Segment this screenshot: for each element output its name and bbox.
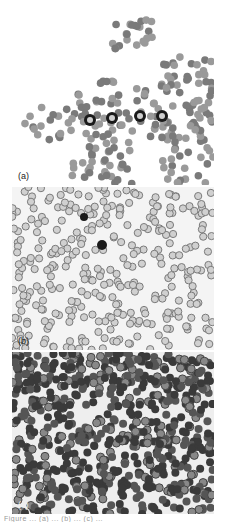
micrograph-b bbox=[12, 187, 214, 350]
panel-label-c: (c) bbox=[18, 500, 29, 510]
panel-label-b: (b) bbox=[18, 336, 29, 346]
micrograph-c bbox=[12, 352, 214, 514]
panel-label-a: (a) bbox=[18, 171, 29, 181]
figure-caption: Figure ... (a) ... (b) ... (c) ... bbox=[4, 515, 224, 522]
figure-panel-a: (a) bbox=[12, 0, 214, 185]
micrograph-a bbox=[12, 0, 214, 185]
figure-panel-c: (c) bbox=[12, 352, 214, 514]
figure-panel-b: (b) bbox=[12, 187, 214, 350]
